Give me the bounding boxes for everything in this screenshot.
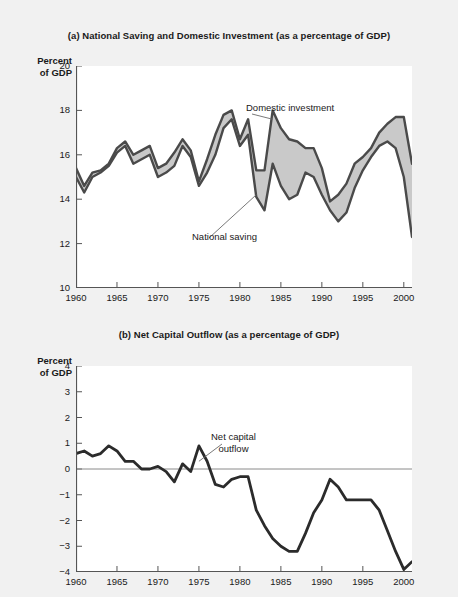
x-tick-label: 1975 bbox=[182, 293, 216, 303]
y-tick-label: 0 bbox=[40, 464, 70, 473]
x-tick-label: 1970 bbox=[141, 293, 175, 303]
x-tick-label: 1960 bbox=[59, 577, 93, 587]
panel-b-chart-svg bbox=[76, 366, 412, 572]
x-tick-label: 1965 bbox=[100, 577, 134, 587]
x-tick-label: 1980 bbox=[223, 577, 257, 587]
panel-a-plot-area bbox=[76, 66, 412, 288]
panel-b-plot-area bbox=[76, 366, 412, 572]
y-tick-label: 12 bbox=[40, 239, 70, 248]
y-tick-label: 16 bbox=[40, 150, 70, 159]
panel-a-chart-svg bbox=[76, 66, 412, 288]
annotation-leader-line bbox=[252, 114, 273, 119]
y-tick-label: −1 bbox=[40, 490, 70, 499]
x-tick-label: 1995 bbox=[346, 293, 380, 303]
panel-a-annotation-national-saving: National saving bbox=[192, 231, 257, 243]
y-tick-label: 4 bbox=[40, 361, 70, 370]
panel-b-annotation-net-capital-outflow: Net capital outflow bbox=[211, 431, 256, 454]
series-line-domestic-investment bbox=[76, 110, 412, 201]
y-tick-label: 2 bbox=[40, 413, 70, 422]
x-tick-label: 1980 bbox=[223, 293, 257, 303]
y-tick-label: 1 bbox=[40, 438, 70, 447]
x-tick-label: 1970 bbox=[141, 577, 175, 587]
x-tick-label: 1960 bbox=[59, 293, 93, 303]
y-tick-label: 3 bbox=[40, 387, 70, 396]
y-tick-label: 20 bbox=[40, 61, 70, 70]
y-tick-label: −4 bbox=[40, 567, 70, 576]
x-tick-label: 1965 bbox=[100, 293, 134, 303]
x-tick-label: 2000 bbox=[387, 293, 421, 303]
panel-b-annotation-line2: outflow bbox=[211, 443, 256, 455]
x-tick-label: 2000 bbox=[387, 577, 421, 587]
y-tick-label: −2 bbox=[40, 516, 70, 525]
panel-a-title: (a) National Saving and Domestic Investm… bbox=[0, 30, 458, 41]
panel-b-title: (b) Net Capital Outflow (as a percentage… bbox=[0, 329, 458, 340]
chart-page: (a) National Saving and Domestic Investm… bbox=[0, 0, 458, 597]
y-tick-label: 14 bbox=[40, 194, 70, 203]
x-tick-label: 1975 bbox=[182, 577, 216, 587]
x-tick-label: 1990 bbox=[305, 293, 339, 303]
y-tick-label: −3 bbox=[40, 541, 70, 550]
panel-b-annotation-line1: Net capital bbox=[211, 431, 256, 443]
panel-a-annotation-domestic-investment: Domestic investment bbox=[246, 102, 334, 114]
y-tick-label: 18 bbox=[40, 105, 70, 114]
x-tick-label: 1985 bbox=[264, 293, 298, 303]
y-tick-label: 10 bbox=[40, 283, 70, 292]
x-tick-label: 1985 bbox=[264, 577, 298, 587]
x-tick-label: 1995 bbox=[346, 577, 380, 587]
series-line-net-capital-outflow bbox=[76, 446, 412, 570]
x-tick-label: 1990 bbox=[305, 577, 339, 587]
